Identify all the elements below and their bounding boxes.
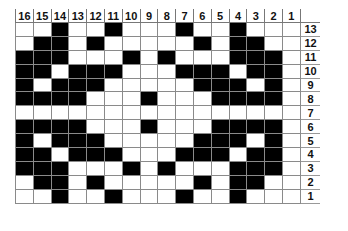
empty-cell xyxy=(158,36,176,50)
filled-cell xyxy=(229,161,247,175)
column-header-row: 16151413121110987654321 xyxy=(16,9,321,23)
filled-cell xyxy=(87,36,105,50)
grid-row: 1 xyxy=(16,189,321,203)
filled-cell xyxy=(33,36,51,50)
column-label: 1 xyxy=(282,9,300,23)
empty-cell xyxy=(122,175,140,189)
row-label: 13 xyxy=(300,23,320,37)
grid-row: 11 xyxy=(16,50,321,64)
grid-row: 10 xyxy=(16,64,321,78)
empty-cell xyxy=(282,64,300,78)
empty-cell xyxy=(140,64,158,78)
empty-cell xyxy=(104,161,122,175)
row-label: 8 xyxy=(300,92,320,106)
empty-cell xyxy=(247,78,265,92)
filled-cell xyxy=(69,64,87,78)
empty-cell xyxy=(87,50,105,64)
corner-cell xyxy=(300,9,320,23)
empty-cell xyxy=(69,106,87,120)
filled-cell xyxy=(87,175,105,189)
empty-cell xyxy=(87,161,105,175)
row-label: 7 xyxy=(300,106,320,120)
filled-cell xyxy=(229,92,247,106)
empty-cell xyxy=(211,36,229,50)
empty-cell xyxy=(176,134,194,148)
row-label: 6 xyxy=(300,120,320,134)
filled-cell xyxy=(104,23,122,37)
filled-cell xyxy=(265,120,283,134)
empty-cell xyxy=(16,23,34,37)
empty-cell xyxy=(229,64,247,78)
empty-cell xyxy=(140,50,158,64)
grid-row: 8 xyxy=(16,92,321,106)
filled-cell xyxy=(51,189,69,203)
empty-cell xyxy=(122,189,140,203)
empty-cell xyxy=(193,50,211,64)
empty-cell xyxy=(69,50,87,64)
filled-cell xyxy=(104,189,122,203)
column-label: 6 xyxy=(193,9,211,23)
filled-cell xyxy=(193,148,211,162)
filled-cell xyxy=(87,78,105,92)
filled-cell xyxy=(265,148,283,162)
filled-cell xyxy=(193,78,211,92)
column-label: 7 xyxy=(176,9,194,23)
filled-cell xyxy=(229,134,247,148)
column-label: 14 xyxy=(51,9,69,23)
empty-cell xyxy=(33,78,51,92)
empty-cell xyxy=(282,148,300,162)
filled-cell xyxy=(265,161,283,175)
empty-cell xyxy=(140,23,158,37)
empty-cell xyxy=(282,36,300,50)
empty-cell xyxy=(104,78,122,92)
row-label: 3 xyxy=(300,161,320,175)
empty-cell xyxy=(104,50,122,64)
filled-cell xyxy=(16,92,34,106)
empty-cell xyxy=(16,36,34,50)
empty-cell xyxy=(211,161,229,175)
filled-cell xyxy=(33,161,51,175)
filled-cell xyxy=(247,64,265,78)
filled-cell xyxy=(211,92,229,106)
empty-cell xyxy=(104,106,122,120)
filled-cell xyxy=(265,50,283,64)
filled-cell xyxy=(140,92,158,106)
empty-cell xyxy=(69,189,87,203)
empty-cell xyxy=(140,36,158,50)
empty-cell xyxy=(122,64,140,78)
empty-cell xyxy=(140,134,158,148)
empty-cell xyxy=(176,78,194,92)
empty-cell xyxy=(33,23,51,37)
empty-cell xyxy=(87,23,105,37)
empty-cell xyxy=(87,106,105,120)
empty-cell xyxy=(265,175,283,189)
empty-cell xyxy=(176,92,194,106)
empty-cell xyxy=(211,106,229,120)
filled-cell xyxy=(51,50,69,64)
grid-body: 13121110987654321 xyxy=(16,23,321,204)
filled-cell xyxy=(229,120,247,134)
filled-cell xyxy=(87,134,105,148)
filled-cell xyxy=(33,92,51,106)
grid-row: 5 xyxy=(16,134,321,148)
empty-cell xyxy=(16,175,34,189)
column-label: 12 xyxy=(87,9,105,23)
column-label: 8 xyxy=(158,9,176,23)
filled-cell xyxy=(247,36,265,50)
empty-cell xyxy=(104,120,122,134)
empty-cell xyxy=(122,120,140,134)
empty-cell xyxy=(158,92,176,106)
filled-cell xyxy=(176,23,194,37)
row-label: 5 xyxy=(300,134,320,148)
filled-cell xyxy=(229,23,247,37)
filled-cell xyxy=(176,64,194,78)
filled-cell xyxy=(87,148,105,162)
empty-cell xyxy=(122,23,140,37)
empty-cell xyxy=(176,36,194,50)
filled-cell xyxy=(158,50,176,64)
filled-cell xyxy=(122,161,140,175)
empty-cell xyxy=(282,161,300,175)
empty-cell xyxy=(51,64,69,78)
filled-cell xyxy=(211,120,229,134)
empty-cell xyxy=(193,189,211,203)
